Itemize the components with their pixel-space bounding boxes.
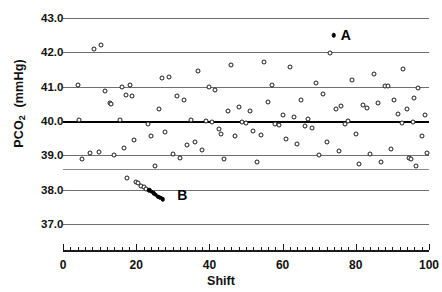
data-point <box>189 118 194 123</box>
data-point <box>251 129 256 134</box>
data-point <box>414 163 419 168</box>
data-point <box>254 160 259 165</box>
plot-area: 37.038.039.040.041.042.043.0AB <box>63 14 429 230</box>
data-point <box>109 101 114 106</box>
data-point <box>76 82 81 87</box>
x-tick <box>253 247 254 251</box>
data-point <box>412 95 417 100</box>
data-point <box>159 76 164 81</box>
data-point <box>265 100 270 105</box>
gridline-38.6 <box>63 169 429 170</box>
data-point <box>309 125 314 130</box>
data-point <box>401 66 406 71</box>
data-point <box>148 134 153 139</box>
y-tick-label-41.0: 41.0 <box>41 81 75 93</box>
x-tick <box>305 247 306 251</box>
x-tick-major-20 <box>136 244 137 250</box>
x-tick <box>407 247 408 251</box>
gridline-43.0 <box>63 18 429 19</box>
gridline-37.0 <box>63 224 429 225</box>
data-point <box>127 82 132 87</box>
x-tick-label-0: 0 <box>60 258 67 272</box>
x-tick <box>392 247 393 251</box>
data-point <box>425 150 430 155</box>
data-point <box>317 153 322 158</box>
data-point <box>405 106 410 111</box>
data-point <box>121 145 126 150</box>
x-tick <box>70 247 71 251</box>
data-point <box>207 84 212 89</box>
data-point <box>386 83 391 88</box>
data-point <box>178 156 183 161</box>
data-point <box>276 123 281 128</box>
x-tick <box>370 247 371 251</box>
x-tick <box>85 247 86 251</box>
data-point <box>119 85 124 90</box>
data-point <box>129 94 134 99</box>
data-point <box>379 160 384 165</box>
data-point <box>280 112 285 117</box>
y-tick-label-38.0: 38.0 <box>41 184 75 196</box>
y-axis-title-units: (mmHg) <box>12 59 26 107</box>
data-point <box>222 157 227 162</box>
data-point <box>306 117 311 122</box>
y-axis-title: PCO2 (mmHg) <box>12 49 27 159</box>
data-point <box>103 88 108 93</box>
data-point <box>225 108 230 113</box>
x-tick <box>414 247 415 251</box>
x-tick <box>312 247 313 251</box>
x-tick <box>92 247 93 251</box>
data-point <box>244 120 249 125</box>
x-tick <box>327 247 328 251</box>
data-point <box>419 134 424 139</box>
scatter-chart: PCO2 (mmHg) 37.038.039.040.041.042.043.0… <box>0 0 442 292</box>
data-point <box>399 120 404 125</box>
x-tick <box>224 247 225 251</box>
x-tick <box>297 247 298 251</box>
data-point <box>375 101 380 106</box>
data-point <box>269 82 274 87</box>
data-point <box>332 33 337 38</box>
x-tick-major-0 <box>63 244 64 250</box>
data-point <box>92 46 97 51</box>
data-point <box>200 148 205 153</box>
data-point <box>233 134 238 139</box>
data-point <box>320 91 325 96</box>
data-point <box>395 112 400 117</box>
data-point <box>160 197 165 202</box>
gridline-38.0 <box>63 190 429 191</box>
data-point <box>163 129 168 134</box>
data-point <box>96 149 101 154</box>
x-tick <box>144 247 145 251</box>
data-point <box>302 124 307 129</box>
x-tick <box>195 247 196 251</box>
data-point <box>212 88 217 93</box>
x-tick-label-60: 60 <box>276 258 289 272</box>
x-tick <box>290 247 291 251</box>
data-point <box>328 51 333 56</box>
x-tick <box>231 247 232 251</box>
data-point <box>145 121 150 126</box>
x-tick <box>348 247 349 251</box>
x-tick <box>268 247 269 251</box>
data-point <box>175 94 180 99</box>
data-point <box>364 105 369 110</box>
data-point <box>408 157 413 162</box>
data-point <box>125 175 130 180</box>
x-axis-title: Shift <box>0 274 442 288</box>
data-point <box>210 119 215 124</box>
data-point <box>357 161 362 166</box>
data-point <box>324 139 329 144</box>
data-point <box>229 63 234 68</box>
data-point <box>333 106 338 111</box>
x-tick <box>107 247 108 251</box>
data-point <box>416 86 421 91</box>
x-tick <box>151 247 152 251</box>
x-tick-label-20: 20 <box>130 258 143 272</box>
data-point <box>388 147 393 152</box>
annotation-label-A: A <box>341 27 351 43</box>
data-point <box>423 112 428 117</box>
x-tick <box>158 247 159 251</box>
x-tick <box>202 247 203 251</box>
data-point <box>258 132 263 137</box>
